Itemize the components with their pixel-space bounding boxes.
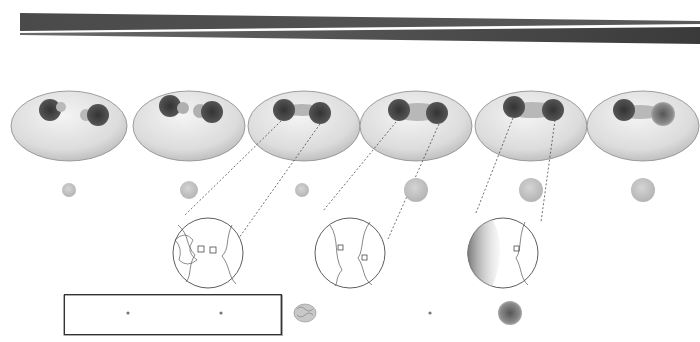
- mobility-badge-4: [404, 178, 428, 202]
- cell-6: [587, 91, 699, 161]
- x-chromosome-icon: [87, 104, 109, 126]
- cell-2: [133, 91, 245, 161]
- mobility-badge-6: [631, 178, 655, 202]
- cell-3: [248, 91, 360, 161]
- coated-chromosome-legend-icon: [498, 301, 522, 325]
- mobility-badge-2: [180, 181, 198, 199]
- cell-1: [11, 91, 127, 161]
- magnified-pairing: [173, 218, 243, 288]
- mobility-badge-5: [519, 178, 543, 202]
- mobility-badge-1: [62, 183, 76, 197]
- mobility-badge-3: [295, 183, 309, 197]
- x-chromosome-legend-icon: [294, 304, 316, 322]
- magnified-accumulation: [467, 218, 538, 288]
- factor-dot-icon: [428, 311, 431, 314]
- cell-5: [475, 91, 587, 161]
- cell-diagram: [0, 0, 700, 342]
- legend-container: [64, 294, 282, 335]
- magnified-separation: [315, 218, 385, 288]
- cell-4: [360, 91, 472, 161]
